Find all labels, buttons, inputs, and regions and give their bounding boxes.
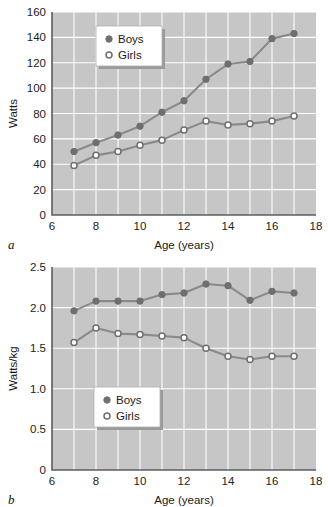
data-point-girls <box>247 357 253 363</box>
data-point-girls <box>71 163 77 169</box>
legend-label-girls: Girls <box>116 410 140 422</box>
data-point-girls <box>137 142 143 148</box>
y-axis-tick-label: 2.5 <box>30 261 46 273</box>
data-point-boys <box>269 35 275 41</box>
data-point-boys <box>137 123 143 129</box>
data-point-boys <box>93 139 99 145</box>
chart-b-svg: 00.51.01.52.02.5681012141618Watts/kgAge … <box>0 255 328 507</box>
y-axis-tick-label: 2.0 <box>30 302 46 314</box>
data-point-boys <box>203 76 209 82</box>
data-point-boys <box>159 291 165 297</box>
data-point-boys <box>269 288 275 294</box>
x-axis-tick-label: 12 <box>178 475 191 487</box>
data-point-boys <box>203 281 209 287</box>
x-axis-title: Age (years) <box>154 494 214 506</box>
x-axis-tick-label: 16 <box>266 220 279 232</box>
data-point-boys <box>181 290 187 296</box>
y-axis-tick-label: 0 <box>40 464 46 476</box>
y-axis-tick-label: 0.5 <box>30 423 46 435</box>
x-axis-title: Age (years) <box>154 239 214 251</box>
panel-label: b <box>8 492 15 507</box>
y-axis-tick-label: 120 <box>27 57 46 69</box>
data-point-boys <box>71 148 77 154</box>
data-point-girls <box>181 335 187 341</box>
y-axis-tick-label: 80 <box>33 108 46 120</box>
x-axis-tick-label: 10 <box>134 220 147 232</box>
legend-label-boys: Boys <box>116 394 142 406</box>
x-axis-tick-label: 16 <box>266 475 279 487</box>
data-point-boys <box>247 297 253 303</box>
data-point-boys <box>159 109 165 115</box>
data-point-girls <box>93 325 99 331</box>
legend-label-boys: Boys <box>118 33 144 45</box>
legend-label-girls: Girls <box>118 49 142 61</box>
x-axis-tick-label: 8 <box>93 475 99 487</box>
chart-a-svg: 020406080100120140160681012141618WattsAg… <box>0 0 328 252</box>
data-point-girls <box>225 122 231 128</box>
y-axis-tick-label: 20 <box>33 184 46 196</box>
data-point-boys <box>115 132 121 138</box>
y-axis-tick-label: 160 <box>27 6 46 18</box>
y-axis-title: Watts <box>7 99 19 128</box>
legend-marker-boys-icon <box>104 397 110 403</box>
y-axis-tick-label: 1.0 <box>30 383 46 395</box>
data-point-girls <box>137 331 143 337</box>
data-point-boys <box>181 98 187 104</box>
legend-marker-girls-icon <box>106 52 112 58</box>
y-axis-tick-label: 1.5 <box>30 342 46 354</box>
data-point-girls <box>269 353 275 359</box>
x-axis-tick-label: 6 <box>49 475 55 487</box>
legend-marker-girls-icon <box>104 413 110 419</box>
chart-panel-b: 00.51.01.52.02.5681012141618Watts/kgAge … <box>0 255 328 507</box>
data-point-girls <box>115 149 121 155</box>
data-point-girls <box>159 137 165 143</box>
y-axis-tick-label: 40 <box>33 158 46 170</box>
data-point-boys <box>71 308 77 314</box>
chart-panel-a: 020406080100120140160681012141618WattsAg… <box>0 0 328 252</box>
data-point-boys <box>225 282 231 288</box>
y-axis-tick-label: 140 <box>27 31 46 43</box>
data-point-boys <box>247 58 253 64</box>
y-axis-tick-label: 60 <box>33 133 46 145</box>
legend-marker-boys-icon <box>106 36 112 42</box>
data-point-boys <box>93 298 99 304</box>
y-axis-tick-label: 0 <box>40 209 46 221</box>
data-point-girls <box>225 353 231 359</box>
data-point-boys <box>291 290 297 296</box>
data-point-girls <box>93 152 99 158</box>
data-point-boys <box>137 298 143 304</box>
y-axis-tick-label: 100 <box>27 82 46 94</box>
data-point-boys <box>225 61 231 67</box>
data-point-girls <box>203 345 209 351</box>
data-point-boys <box>291 30 297 36</box>
data-point-girls <box>159 333 165 339</box>
x-axis-tick-label: 18 <box>310 475 323 487</box>
data-point-girls <box>247 121 253 127</box>
x-axis-tick-label: 6 <box>49 220 55 232</box>
x-axis-tick-label: 12 <box>178 220 191 232</box>
x-axis-tick-label: 14 <box>222 220 235 232</box>
data-point-boys <box>115 298 121 304</box>
panel-label: a <box>8 237 15 252</box>
data-point-girls <box>291 353 297 359</box>
x-axis-tick-label: 14 <box>222 475 235 487</box>
data-point-girls <box>71 340 77 346</box>
data-point-girls <box>115 331 121 337</box>
y-axis-title: Watts/kg <box>7 346 19 390</box>
x-axis-tick-label: 18 <box>310 220 323 232</box>
data-point-girls <box>291 113 297 119</box>
data-point-girls <box>269 118 275 124</box>
data-point-girls <box>181 127 187 133</box>
x-axis-tick-label: 8 <box>93 220 99 232</box>
data-point-girls <box>203 118 209 124</box>
x-axis-tick-label: 10 <box>134 475 147 487</box>
